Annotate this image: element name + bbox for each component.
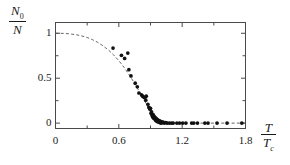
data-point: [206, 121, 210, 125]
data-point: [192, 121, 196, 125]
y-axis-tick-label: 1: [46, 26, 52, 38]
x-axis-tick-label: 0: [53, 134, 59, 146]
data-point: [196, 121, 200, 125]
data-point: [123, 57, 127, 61]
data-point: [144, 98, 148, 102]
x-axis-tick-label: 1.2: [175, 134, 189, 146]
data-point: [184, 121, 188, 125]
data-point: [149, 106, 153, 110]
y-axis-label-numerator: N: [11, 3, 20, 18]
data-point: [133, 81, 137, 85]
data-point: [215, 121, 219, 125]
x-axis-tick-label: 1.8: [239, 134, 253, 146]
chart-figure: N0 N T Tc 00.61.21.800.51: [0, 0, 290, 165]
data-point: [146, 102, 150, 106]
x-axis-tick-label: 0.6: [112, 134, 126, 146]
data-point: [120, 53, 124, 57]
data-point: [127, 68, 131, 72]
x-axis-label-denominator-subscript: c: [270, 144, 274, 153]
data-point: [178, 121, 182, 125]
y-axis-label-numerator-subscript: 0: [20, 12, 24, 21]
y-axis-tick-label: 0.5: [38, 71, 52, 83]
data-point: [171, 121, 175, 125]
y-axis-label: N0 N: [9, 4, 26, 36]
data-point: [225, 121, 229, 125]
data-point: [111, 46, 115, 50]
data-point: [240, 121, 244, 125]
data-point: [181, 121, 185, 125]
x-axis-label-numerator: T: [265, 120, 272, 135]
data-point-group: [111, 46, 243, 125]
x-axis-label: T Tc: [261, 121, 276, 153]
data-point: [203, 121, 207, 125]
y-axis-label-denominator: N: [13, 22, 22, 37]
y-axis-tick-label: 0: [46, 116, 52, 128]
data-point: [135, 85, 139, 89]
data-point: [126, 51, 130, 55]
data-point: [129, 74, 133, 78]
data-point: [144, 94, 148, 98]
